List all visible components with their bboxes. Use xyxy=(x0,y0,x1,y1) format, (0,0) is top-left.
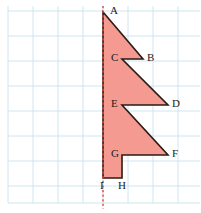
vertex-label-d: D xyxy=(172,98,180,109)
vertex-label-b: B xyxy=(147,52,154,63)
vertex-label-i: I xyxy=(100,180,104,191)
vertex-label-h: H xyxy=(118,180,126,191)
vertex-label-e: E xyxy=(111,98,118,109)
figure-canvas: ABCDEFGHI xyxy=(0,0,201,213)
vertex-label-g: G xyxy=(111,148,119,159)
vertex-label-a: A xyxy=(110,5,118,16)
vertex-label-c: C xyxy=(111,52,118,63)
vertex-label-f: F xyxy=(172,148,178,159)
